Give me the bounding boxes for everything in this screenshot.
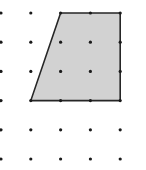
grid-dot (119, 41, 122, 44)
grid-dot (29, 11, 32, 14)
grid-dot (29, 70, 32, 73)
grid-dot (119, 99, 122, 102)
diagram-svg (0, 0, 146, 170)
grid-dot (119, 11, 122, 14)
grid-dot (89, 157, 92, 160)
grid-dot (29, 128, 32, 131)
grid-dot (89, 41, 92, 44)
grid-dot (59, 70, 62, 73)
grid-dot (89, 99, 92, 102)
grid-dot (29, 41, 32, 44)
grid-dot (89, 128, 92, 131)
grid-dot (29, 157, 32, 160)
grid-dot (89, 11, 92, 14)
grid-dot (29, 99, 32, 102)
dot-grid-diagram (0, 0, 146, 170)
grid-dot (119, 70, 122, 73)
grid-dot (59, 11, 62, 14)
grid-dot (119, 157, 122, 160)
grid-dot (119, 128, 122, 131)
grid-dot (89, 70, 92, 73)
grid-dot (59, 41, 62, 44)
grid-dot (59, 99, 62, 102)
grid-dot (59, 128, 62, 131)
grid-dot (59, 157, 62, 160)
